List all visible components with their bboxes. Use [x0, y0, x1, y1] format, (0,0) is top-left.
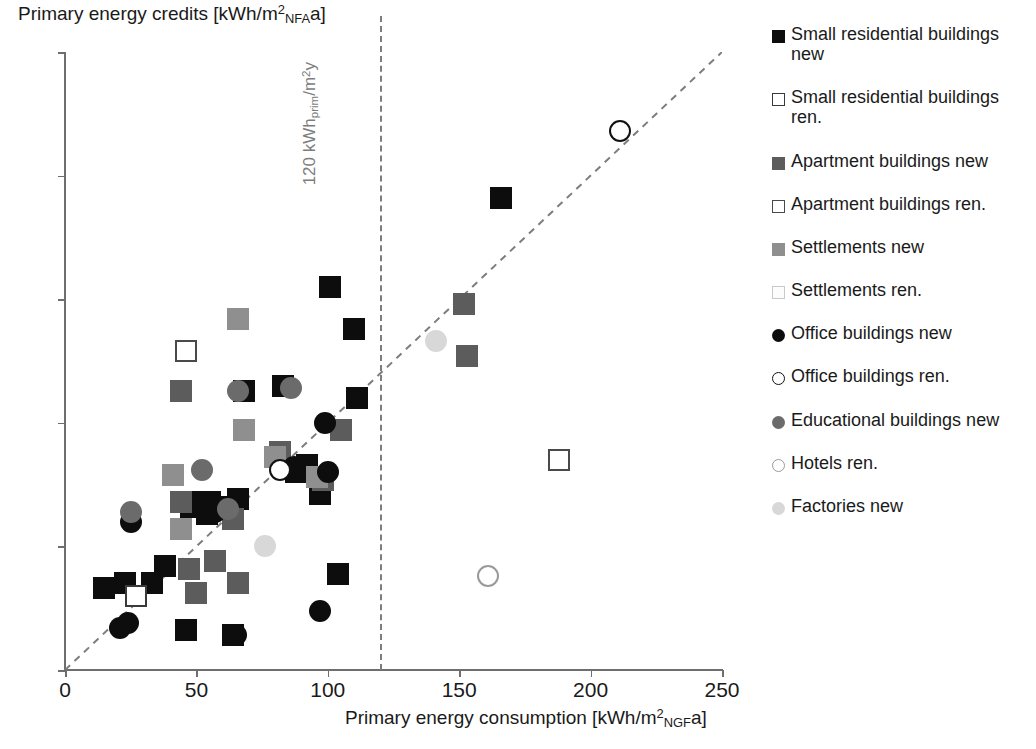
- legend-circle-icon: [772, 459, 785, 472]
- x-tick: [722, 670, 724, 677]
- data-point: [178, 558, 200, 580]
- legend-item-8[interactable]: Educational buildings new: [772, 410, 1022, 430]
- legend-square-icon: [772, 243, 785, 256]
- chart-legend: Small residential buildings newSmall res…: [772, 24, 1022, 539]
- x-axis-title-sup: 2: [657, 706, 664, 721]
- legend-item-label: Settlements ren.: [791, 280, 922, 300]
- data-point: [170, 380, 192, 402]
- threshold-label-sup: 2: [300, 71, 312, 77]
- x-tick: [591, 670, 593, 677]
- x-tick-label: 50: [166, 678, 226, 702]
- data-point: [477, 565, 499, 587]
- legend-square-icon: [772, 30, 785, 43]
- legend-item-label: Apartment buildings ren.: [791, 194, 986, 214]
- legend-item-1[interactable]: Small residential buildings ren.: [772, 87, 1022, 127]
- y-axis-title-post: a]: [310, 3, 326, 24]
- x-axis-title: Primary energy consumption [kWh/m2NGFa]: [345, 706, 707, 730]
- data-point: [548, 449, 570, 471]
- threshold-label-sub: prim: [308, 96, 320, 118]
- y-tick: [58, 423, 65, 425]
- data-point: [490, 187, 512, 209]
- legend-item-label: Small residential buildings new: [791, 24, 1022, 64]
- data-point: [117, 612, 139, 634]
- x-tick-label: 100: [298, 678, 358, 702]
- data-point: [425, 330, 447, 352]
- legend-item-0[interactable]: Small residential buildings new: [772, 24, 1022, 64]
- scatter-chart-figure: Primary energy credits [kWh/m2NFAa] Prim…: [0, 0, 1036, 749]
- x-tick-label: 250: [692, 678, 752, 702]
- zero-energy-line: [65, 52, 722, 670]
- data-point: [317, 461, 339, 483]
- legend-circle-icon: [772, 372, 785, 385]
- x-axis-title-pre: Primary energy consumption [kWh/m: [345, 707, 657, 728]
- x-axis-title-post: a]: [691, 707, 707, 728]
- y-axis-title-sup: 2: [278, 2, 285, 17]
- y-tick: [58, 176, 65, 178]
- legend-item-5[interactable]: Settlements ren.: [772, 280, 1022, 300]
- plot-area: 050100150200250 050100150200250: [65, 52, 722, 670]
- data-point: [191, 459, 213, 481]
- legend-item-label: Settlements new: [791, 237, 924, 257]
- data-point: [327, 563, 349, 585]
- legend-item-2[interactable]: Apartment buildings new: [772, 151, 1022, 171]
- data-point: [309, 600, 331, 622]
- legend-item-3[interactable]: Apartment buildings ren.: [772, 194, 1022, 214]
- data-point: [175, 340, 197, 362]
- legend-item-7[interactable]: Office buildings ren.: [772, 366, 1022, 386]
- threshold-line-label: 120 kWhprim/m2y: [300, 62, 320, 185]
- legend-item-label: Office buildings ren.: [791, 366, 950, 386]
- legend-square-icon: [772, 93, 785, 106]
- data-point: [204, 550, 226, 572]
- data-point: [93, 577, 115, 599]
- data-point: [280, 377, 302, 399]
- data-point: [319, 276, 341, 298]
- x-tick: [196, 670, 198, 677]
- y-tick: [58, 546, 65, 548]
- x-tick-label: 0: [35, 678, 95, 702]
- x-tick-label: 150: [429, 678, 489, 702]
- legend-item-label: Apartment buildings new: [791, 151, 988, 171]
- data-point: [175, 619, 197, 641]
- data-point: [217, 498, 239, 520]
- data-point: [314, 412, 336, 434]
- threshold-label-post: /m: [300, 77, 319, 96]
- data-point: [185, 582, 207, 604]
- data-point: [254, 535, 276, 557]
- y-axis-title-pre: Primary energy credits [kWh/m: [18, 3, 278, 24]
- legend-square-icon: [772, 286, 785, 299]
- threshold-label-pre: 120 kWh: [300, 118, 319, 185]
- legend-circle-icon: [772, 502, 785, 515]
- legend-square-icon: [772, 200, 785, 213]
- legend-square-icon: [772, 157, 785, 170]
- legend-item-10[interactable]: Factories new: [772, 496, 1022, 516]
- x-axis-title-sub: NGF: [664, 715, 691, 730]
- data-point: [120, 501, 142, 523]
- legend-item-9[interactable]: Hotels ren.: [772, 453, 1022, 473]
- data-point: [154, 555, 176, 577]
- data-point: [453, 293, 475, 315]
- data-point: [346, 387, 368, 409]
- x-tick: [65, 670, 67, 677]
- data-point: [225, 624, 247, 646]
- data-point: [609, 120, 631, 142]
- y-tick: [58, 299, 65, 301]
- data-point: [233, 419, 255, 441]
- legend-item-label: Factories new: [791, 496, 903, 516]
- legend-circle-icon: [772, 329, 785, 342]
- y-axis-title: Primary energy credits [kWh/m2NFAa]: [18, 2, 326, 26]
- legend-item-label: Hotels ren.: [791, 453, 878, 473]
- legend-item-label: Small residential buildings ren.: [791, 87, 1022, 127]
- y-axis-title-sub: NFA: [285, 11, 310, 26]
- data-point: [227, 380, 249, 402]
- data-point: [170, 518, 192, 540]
- threshold-label-tail: y: [300, 62, 319, 71]
- y-tick: [58, 670, 65, 672]
- legend-item-label: Office buildings new: [791, 323, 952, 343]
- data-point: [170, 491, 192, 513]
- x-tick: [459, 670, 461, 677]
- legend-item-label: Educational buildings new: [791, 410, 999, 430]
- data-point: [162, 464, 184, 486]
- legend-item-4[interactable]: Settlements new: [772, 237, 1022, 257]
- legend-item-6[interactable]: Office buildings new: [772, 323, 1022, 343]
- legend-circle-icon: [772, 416, 785, 429]
